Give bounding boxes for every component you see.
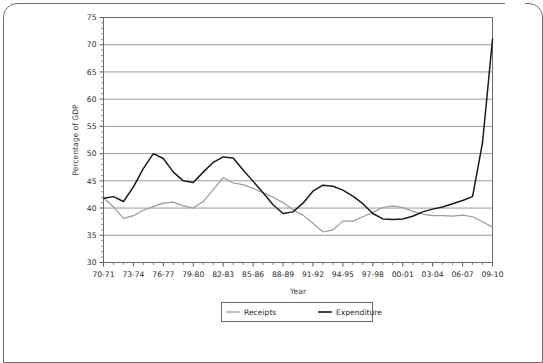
y-tick-label: 70 — [87, 40, 97, 49]
y-tick-labels-group: 30354045505560657075 — [87, 13, 97, 267]
y-tick-label: 30 — [87, 258, 97, 267]
x-tick-label: 82-83 — [212, 270, 234, 279]
y-axis-title: Percentage of GDP — [71, 104, 80, 176]
series-line-expenditure — [104, 39, 493, 219]
y-tick-label: 65 — [87, 68, 97, 77]
x-tick-label: 06-07 — [452, 270, 474, 279]
x-tick-label: 97-98 — [362, 270, 384, 279]
y-tick-label: 55 — [87, 122, 97, 131]
x-tick-label: 79-80 — [182, 270, 204, 279]
legend-label-receipts: Receipts — [244, 308, 276, 317]
x-tick-label: 94-95 — [332, 270, 354, 279]
y-tick-label: 35 — [87, 231, 97, 240]
y-major-ticks-group — [100, 18, 104, 263]
y-tick-label: 40 — [87, 204, 97, 213]
x-tick-label: 03-04 — [422, 270, 444, 279]
y-tick-label: 60 — [87, 95, 97, 104]
x-tick-label: 76-77 — [152, 270, 174, 279]
data-series-group — [104, 39, 493, 232]
x-tick-label: 09-10 — [481, 270, 503, 279]
y-tick-label: 50 — [87, 149, 97, 158]
legend-label-expenditure: Expenditure — [336, 308, 382, 317]
legend: ReceiptsExpenditure — [222, 303, 383, 322]
x-tick-label: 85-86 — [242, 270, 264, 279]
plot-area-border — [104, 18, 493, 263]
x-axis-title: Year — [289, 287, 307, 296]
x-tick-label: 70-71 — [92, 270, 114, 279]
series-line-receipts — [104, 178, 493, 232]
x-tick-label: 73-74 — [122, 270, 144, 279]
x-tick-labels-group: 70-7173-7476-7779-8082-8385-8688-8991-92… — [92, 270, 503, 279]
x-ticks-group — [104, 263, 493, 267]
x-tick-label: 88-89 — [272, 270, 294, 279]
y-tick-label: 75 — [87, 13, 97, 22]
y-tick-label: 45 — [87, 177, 97, 186]
x-tick-label: 00-01 — [392, 270, 414, 279]
x-tick-label: 91-92 — [302, 270, 324, 279]
